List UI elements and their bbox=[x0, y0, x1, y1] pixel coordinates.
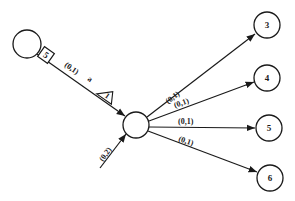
node-center bbox=[123, 112, 149, 138]
network-diagram: 5 (0,1) a 1 (0,2) (0,1) (0,1) (0,1) (0,1… bbox=[0, 0, 295, 201]
node-5-label: 5 bbox=[267, 123, 272, 133]
edge-center-to-5 bbox=[149, 127, 255, 128]
node-6-label: 6 bbox=[268, 173, 273, 183]
edge-center-to-3 bbox=[147, 34, 255, 117]
edge-mid-marker: a bbox=[86, 74, 94, 84]
node-4-label: 4 bbox=[265, 73, 270, 83]
node-3-label: 3 bbox=[265, 20, 270, 30]
edge-left-to-center bbox=[37, 54, 125, 116]
edge-label-center-6: (0,1) bbox=[177, 134, 195, 147]
triangle-marker: 1 bbox=[97, 85, 118, 104]
node-left bbox=[13, 30, 41, 58]
edge-center-to-4 bbox=[149, 82, 254, 121]
edge-center-to-6 bbox=[148, 131, 257, 172]
edge-label-center-5: (0,1) bbox=[178, 117, 194, 126]
